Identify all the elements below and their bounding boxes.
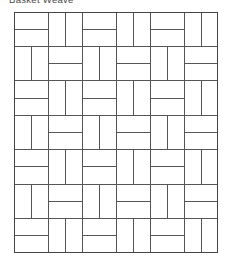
pattern-panel: [14, 12, 218, 253]
pattern-caption: Basket Weave: [9, 0, 209, 6]
basket-weave-diagram: [14, 12, 218, 253]
basket-weave-figure: Basket Weave: [0, 0, 234, 267]
